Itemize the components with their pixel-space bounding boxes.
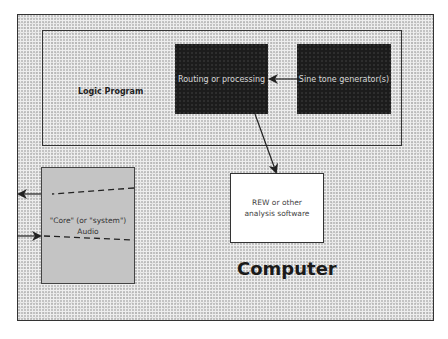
logic-program-label: Logic Program: [78, 87, 143, 96]
core-audio-label: "Core" (or "system") Audio: [48, 215, 128, 237]
routing-label: Routing or processing: [178, 75, 265, 84]
core-audio-node: "Core" (or "system") Audio: [41, 167, 135, 284]
rew-label: REW or other analysis software: [237, 197, 317, 219]
sine-generator-node: Sine tone generator(s): [297, 44, 391, 114]
computer-label: Computer: [237, 258, 337, 279]
sine-generator-label: Sine tone generator(s): [299, 75, 389, 84]
routing-node: Routing or processing: [175, 44, 268, 114]
rew-node: REW or other analysis software: [230, 173, 324, 243]
